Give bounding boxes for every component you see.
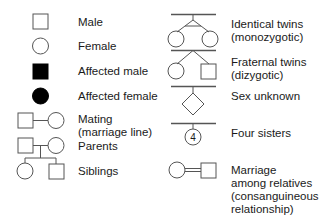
label-siblings: Siblings (78, 165, 118, 178)
label-identical-twins: Identical twins (monozygotic) (231, 18, 303, 44)
affected-female-circle-icon (33, 88, 49, 104)
consanguineous-line3: (consanguineous (231, 190, 319, 203)
identical-twins-line2: (monozygotic) (231, 31, 303, 44)
label-parents: Parents (78, 140, 118, 153)
fraternal-twins-line1: Fraternal twins (231, 56, 306, 69)
label-male: Male (78, 16, 103, 29)
identical-twins-icon (168, 15, 218, 48)
label-female: Female (78, 40, 116, 53)
label-four-sisters: Four sisters (231, 127, 291, 140)
fraternal-twins-line2: (dizygotic) (231, 69, 306, 82)
consanguineous-marriage-icon (169, 162, 216, 178)
parents-siblings-icon (17, 138, 64, 180)
mating-line-icon (18, 113, 64, 129)
consanguineous-line2: among relatives (231, 177, 319, 190)
consanguineous-line4: relationship) (231, 203, 319, 216)
label-sex-unknown: Sex unknown (231, 90, 300, 103)
male-square-icon (33, 14, 48, 29)
label-mating: Mating (marriage line) (78, 113, 158, 139)
label-consanguineous: Marriage among relatives (consanguineous… (231, 164, 319, 216)
label-affected-male: Affected male (78, 65, 148, 78)
identical-twins-line1: Identical twins (231, 18, 303, 31)
consanguineous-line1: Marriage (231, 164, 319, 177)
affected-male-square-icon (33, 64, 48, 79)
fraternal-twins-icon (168, 51, 216, 80)
four-sisters-count: 4 (190, 132, 196, 143)
label-fraternal-twins: Fraternal twins (dizygotic) (231, 56, 306, 82)
sex-unknown-diamond-icon (171, 87, 216, 116)
label-affected-female: Affected female (78, 90, 158, 103)
female-circle-icon (33, 38, 49, 54)
